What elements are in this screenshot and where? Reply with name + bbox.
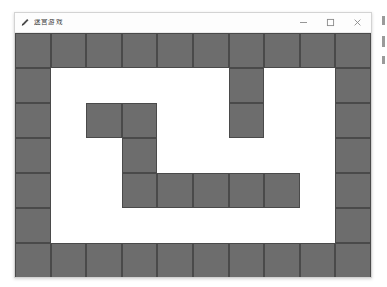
edge-artifact-mark bbox=[382, 36, 385, 47]
close-button[interactable] bbox=[344, 13, 371, 32]
maze-wall-cell[interactable] bbox=[86, 33, 122, 68]
maze-path-cell[interactable] bbox=[193, 208, 229, 243]
maze-wall-cell[interactable] bbox=[122, 173, 158, 208]
maze-wall-cell[interactable] bbox=[264, 243, 300, 277]
maze-wall-cell[interactable] bbox=[335, 33, 371, 68]
maze-wall-cell[interactable] bbox=[86, 243, 122, 277]
maze-wall-cell[interactable] bbox=[335, 103, 371, 138]
maze-wall-cell[interactable] bbox=[335, 138, 371, 173]
maze-path-cell[interactable] bbox=[51, 173, 87, 208]
maze-canvas[interactable] bbox=[15, 33, 371, 277]
edge-artifact-mark bbox=[382, 56, 385, 64]
maze-wall-cell[interactable] bbox=[15, 208, 51, 243]
maze-path-cell[interactable] bbox=[300, 173, 336, 208]
maze-path-cell[interactable] bbox=[300, 138, 336, 173]
maze-wall-cell[interactable] bbox=[300, 243, 336, 277]
maze-path-cell[interactable] bbox=[264, 103, 300, 138]
maze-path-cell[interactable] bbox=[51, 208, 87, 243]
maze-path-cell[interactable] bbox=[86, 173, 122, 208]
maze-path-cell[interactable] bbox=[229, 208, 265, 243]
maze-path-cell[interactable] bbox=[122, 208, 158, 243]
maze-wall-cell[interactable] bbox=[229, 68, 265, 103]
maximize-icon bbox=[326, 18, 335, 27]
maze-path-cell[interactable] bbox=[264, 208, 300, 243]
edge-artifacts bbox=[379, 14, 387, 72]
maze-wall-cell[interactable] bbox=[335, 68, 371, 103]
maze-wall-cell[interactable] bbox=[193, 243, 229, 277]
maze-wall-cell[interactable] bbox=[86, 103, 122, 138]
maze-path-cell[interactable] bbox=[157, 103, 193, 138]
maze-wall-cell[interactable] bbox=[15, 103, 51, 138]
pencil-icon bbox=[20, 18, 30, 28]
close-icon bbox=[353, 18, 362, 27]
maze-wall-cell[interactable] bbox=[122, 103, 158, 138]
maze-path-cell[interactable] bbox=[193, 68, 229, 103]
maze-wall-cell[interactable] bbox=[122, 243, 158, 277]
minimize-icon bbox=[299, 18, 308, 27]
edge-artifact-mark bbox=[382, 16, 385, 25]
maze-wall-cell[interactable] bbox=[122, 33, 158, 68]
maze-wall-cell[interactable] bbox=[193, 33, 229, 68]
title-bar[interactable]: 迷宫游戏 bbox=[15, 13, 371, 33]
maze-wall-cell[interactable] bbox=[15, 138, 51, 173]
maze-wall-cell[interactable] bbox=[335, 173, 371, 208]
maze-wall-cell[interactable] bbox=[15, 243, 51, 277]
maze-wall-cell[interactable] bbox=[193, 173, 229, 208]
maze-wall-cell[interactable] bbox=[15, 173, 51, 208]
maze-path-cell[interactable] bbox=[157, 208, 193, 243]
maze-wall-cell[interactable] bbox=[157, 243, 193, 277]
maze-wall-cell[interactable] bbox=[229, 243, 265, 277]
maze-wall-cell[interactable] bbox=[51, 33, 87, 68]
minimize-button[interactable] bbox=[290, 13, 317, 32]
maze-wall-cell[interactable] bbox=[229, 173, 265, 208]
maze-path-cell[interactable] bbox=[300, 208, 336, 243]
maze-path-cell[interactable] bbox=[193, 138, 229, 173]
maze-path-cell[interactable] bbox=[300, 68, 336, 103]
maze-wall-cell[interactable] bbox=[335, 243, 371, 277]
maze-path-cell[interactable] bbox=[122, 68, 158, 103]
application-window: 迷宫游戏 bbox=[14, 12, 372, 278]
window-controls bbox=[290, 13, 371, 32]
maze-path-cell[interactable] bbox=[51, 103, 87, 138]
maze-path-cell[interactable] bbox=[86, 208, 122, 243]
maze-path-cell[interactable] bbox=[86, 68, 122, 103]
maze-wall-cell[interactable] bbox=[229, 103, 265, 138]
maze-path-cell[interactable] bbox=[300, 103, 336, 138]
maze-wall-cell[interactable] bbox=[15, 68, 51, 103]
maze-path-cell[interactable] bbox=[157, 68, 193, 103]
maze-wall-cell[interactable] bbox=[229, 33, 265, 68]
maze-wall-cell[interactable] bbox=[15, 33, 51, 68]
window-title: 迷宫游戏 bbox=[34, 19, 63, 26]
maze-wall-cell[interactable] bbox=[264, 173, 300, 208]
maze-wall-cell[interactable] bbox=[122, 138, 158, 173]
maze-path-cell[interactable] bbox=[51, 68, 87, 103]
maze-wall-cell[interactable] bbox=[51, 243, 87, 277]
maze-path-cell[interactable] bbox=[264, 68, 300, 103]
maze-path-cell[interactable] bbox=[51, 138, 87, 173]
maze-wall-cell[interactable] bbox=[157, 173, 193, 208]
maze-path-cell[interactable] bbox=[229, 138, 265, 173]
maze-wall-cell[interactable] bbox=[335, 208, 371, 243]
maze-path-cell[interactable] bbox=[157, 138, 193, 173]
title-bar-left-group: 迷宫游戏 bbox=[15, 18, 290, 28]
maze-grid[interactable] bbox=[15, 33, 371, 277]
maze-path-cell[interactable] bbox=[86, 138, 122, 173]
maze-wall-cell[interactable] bbox=[300, 33, 336, 68]
maze-wall-cell[interactable] bbox=[264, 33, 300, 68]
maze-wall-cell[interactable] bbox=[157, 33, 193, 68]
maze-path-cell[interactable] bbox=[193, 103, 229, 138]
maximize-button[interactable] bbox=[317, 13, 344, 32]
maze-path-cell[interactable] bbox=[264, 138, 300, 173]
